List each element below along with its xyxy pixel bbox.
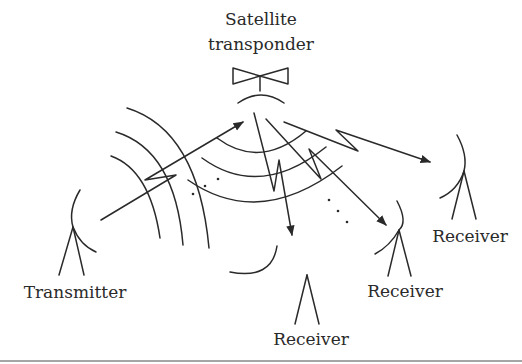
receiver-middle-dish-icon [375, 201, 411, 276]
receiver-dish-icon [230, 246, 277, 274]
downlink-signal-right [284, 122, 430, 162]
receiver-bottom-dish-icon [295, 275, 319, 324]
uplink-signal [101, 122, 243, 220]
receiver-bottom-label: Receiver [273, 329, 350, 349]
satellite-label-line2: transponder [208, 34, 315, 54]
satellite-diagram: Satellite transponder [0, 0, 522, 364]
satellite-transponder-icon [233, 68, 288, 103]
receiver-middle-label: Receiver [367, 281, 444, 301]
receiver-right-label: Receiver [432, 226, 509, 246]
receiver-right-dish-icon [440, 135, 476, 219]
transmitter-dish-icon [59, 190, 96, 275]
satellite-label-line1: Satellite [225, 9, 297, 29]
transmitter-label: Transmitter [24, 282, 128, 302]
